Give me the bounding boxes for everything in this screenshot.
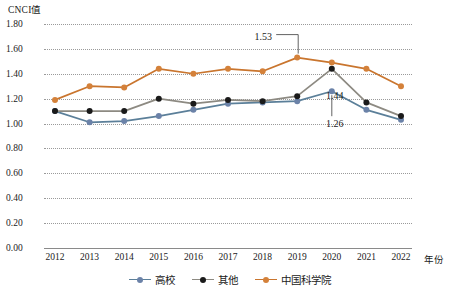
data-point — [329, 60, 335, 66]
data-point — [260, 68, 266, 74]
data-point — [121, 84, 127, 90]
data-point — [121, 118, 127, 124]
legend-label: 中国科学院 — [281, 272, 331, 287]
chart-legend: 高校其他中国科学院 — [0, 272, 460, 287]
data-point — [363, 107, 369, 113]
data-point — [225, 97, 231, 103]
series-其他 — [52, 66, 404, 119]
legend-marker-icon — [192, 275, 214, 284]
data-label-1-53: 1.53 — [254, 30, 272, 41]
data-point — [363, 99, 369, 105]
series-line — [55, 58, 401, 100]
data-point — [121, 108, 127, 114]
series-高校 — [52, 88, 404, 125]
legend-label: 其他 — [218, 272, 238, 287]
data-point — [294, 55, 300, 61]
data-label-1-26: 1.26 — [326, 118, 344, 129]
data-point — [190, 107, 196, 113]
legend-marker-icon — [129, 275, 151, 284]
annotation-leader-line — [276, 35, 298, 54]
data-point — [363, 66, 369, 72]
data-point — [52, 108, 58, 114]
data-point — [225, 66, 231, 72]
legend-label: 高校 — [155, 272, 175, 287]
data-point — [87, 83, 93, 89]
data-point — [398, 83, 404, 89]
series-plot-layer — [0, 0, 460, 302]
legend-item-其他[interactable]: 其他 — [192, 272, 238, 287]
legend-marker-icon — [255, 275, 277, 284]
cnci-line-chart: CNCI值 年份 0.000.200.400.600.801.001.201.4… — [0, 0, 460, 302]
data-point — [156, 66, 162, 72]
legend-item-高校[interactable]: 高校 — [129, 272, 175, 287]
data-point — [87, 119, 93, 125]
series-line — [55, 91, 401, 122]
data-point — [190, 101, 196, 107]
data-point — [156, 113, 162, 119]
series-中国科学院 — [52, 55, 404, 103]
data-label-1-44: 1.44 — [326, 89, 344, 100]
data-point — [156, 96, 162, 102]
legend-item-中国科学院[interactable]: 中国科学院 — [255, 272, 331, 287]
data-point — [294, 93, 300, 99]
data-point — [398, 113, 404, 119]
data-point — [87, 108, 93, 114]
data-point — [260, 98, 266, 104]
data-point — [329, 66, 335, 72]
data-point — [52, 97, 58, 103]
data-point — [190, 71, 196, 77]
series-line — [55, 69, 401, 116]
